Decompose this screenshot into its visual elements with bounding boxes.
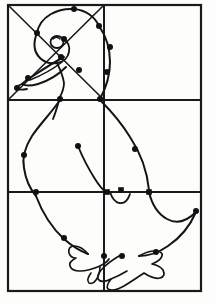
figure-canvas: [0, 0, 215, 305]
duck-grid-drawing: [0, 0, 215, 305]
marker-head-crown-left: [34, 30, 40, 36]
marker-head-cheek: [61, 36, 67, 42]
marker-body-left-mid: [21, 152, 27, 158]
marker-head-jaw: [58, 54, 64, 60]
marker-neck-back-cross: [97, 96, 103, 102]
marker-wing-start: [75, 143, 81, 149]
marker-body-back-mid: [132, 146, 138, 152]
marker-tail-tip: [153, 249, 159, 255]
marker-foot-right-join: [119, 253, 125, 259]
marker-tail-right: [193, 208, 199, 214]
marker-body-back-cross: [146, 189, 152, 195]
marker-neck-upper: [107, 44, 113, 50]
marker-beak-tip: [14, 85, 20, 91]
marker-head-neck-top: [96, 23, 102, 29]
marker-wing-cross: [104, 189, 110, 195]
marker-neck-lower: [104, 69, 110, 75]
marker-breast-notch: [118, 187, 124, 193]
marker-neck-front-cross: [57, 96, 63, 102]
marker-head-top: [71, 6, 77, 12]
marker-foot-left-join: [101, 253, 107, 259]
marker-leg-left-top: [61, 235, 67, 241]
marker-body-left-cross: [33, 189, 39, 195]
marker-beak-mid: [25, 75, 31, 81]
marker-chin: [76, 67, 82, 73]
